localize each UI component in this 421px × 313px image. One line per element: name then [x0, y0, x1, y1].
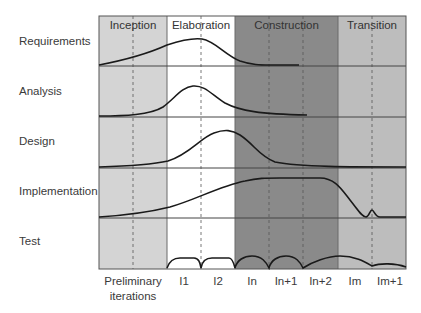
phase-label-inception: Inception [99, 19, 167, 31]
row-label-analysis: Analysis [19, 85, 62, 97]
iteration-label-preliminary: Preliminary iterations [99, 274, 167, 304]
iteration-label-im-plus-1: Im+1 [372, 274, 408, 289]
phase-label-elaboration: Elaboration [167, 19, 235, 31]
iteration-label-in: In [235, 274, 269, 289]
row-label-requirements: Requirements [19, 35, 91, 47]
phase-label-construction: Construction [235, 19, 338, 31]
iteration-label-i1: I1 [167, 274, 201, 289]
iteration-label-i2: I2 [201, 274, 235, 289]
row-label-design: Design [19, 135, 55, 147]
iteration-label-in-plus-2: In+2 [303, 274, 338, 289]
row-label-implementation: Implementation [19, 185, 98, 197]
iteration-label-line2: iterations [99, 289, 167, 304]
iteration-label-line1: Preliminary [99, 274, 167, 289]
row-label-test: Test [19, 235, 40, 247]
iteration-label-im: Im [338, 274, 372, 289]
phase-label-transition: Transition [338, 19, 406, 31]
iteration-label-in-plus-1: In+1 [269, 274, 303, 289]
